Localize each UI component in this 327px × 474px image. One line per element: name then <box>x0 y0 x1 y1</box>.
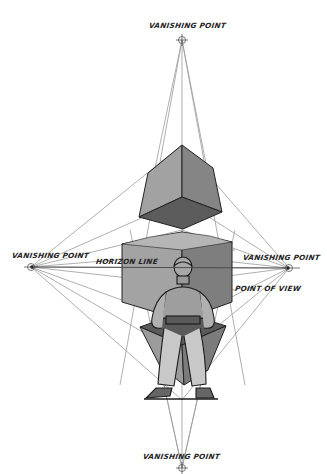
label-point-of-view: POINT OF VIEW <box>234 284 301 293</box>
top-cube <box>139 145 222 229</box>
label-vanishing-point-right: VANISHING POINT <box>242 253 320 262</box>
label-vanishing-point-left: VANISHING POINT <box>11 251 89 260</box>
vp-top-marker <box>176 34 188 46</box>
label-vanishing-point-bottom: VANISHING POINT <box>142 452 220 461</box>
label-horizon-line: HORIZON LINE <box>95 257 158 266</box>
horizon-line <box>31 267 289 268</box>
vp-bottom-marker <box>176 462 188 474</box>
label-vanishing-point-top: VANISHING POINT <box>148 21 226 30</box>
perspective-diagram <box>0 0 327 474</box>
